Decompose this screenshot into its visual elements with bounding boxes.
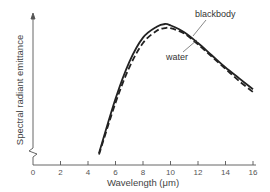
blackbody-curve: [99, 24, 253, 153]
blackbody-leader: [193, 20, 206, 36]
blackbody-label: blackbody: [195, 9, 236, 19]
x-tick-label: 4: [86, 168, 91, 177]
x-tick-label: 8: [141, 168, 146, 177]
y-axis-label: Spectral radiant emittance: [14, 35, 25, 145]
x-axis: [33, 161, 256, 165]
x-tick-label: 6: [113, 168, 118, 177]
chart: 0246810121416 Wavelength (μm) Spectral r…: [0, 0, 270, 192]
x-tick-label: 10: [166, 168, 175, 177]
x-tick-label: 0: [31, 168, 36, 177]
x-axis-label: Wavelength (μm): [107, 177, 179, 188]
water-label: water: [165, 52, 188, 62]
x-tick-label: 14: [221, 168, 230, 177]
water-leader: [183, 40, 197, 52]
x-tick-label: 16: [249, 168, 258, 177]
x-tick-label: 2: [58, 168, 63, 177]
water-curve: [99, 28, 253, 155]
y-axis: [29, 13, 37, 165]
x-tick-labels: 0246810121416: [31, 168, 258, 177]
x-tick-label: 12: [194, 168, 203, 177]
